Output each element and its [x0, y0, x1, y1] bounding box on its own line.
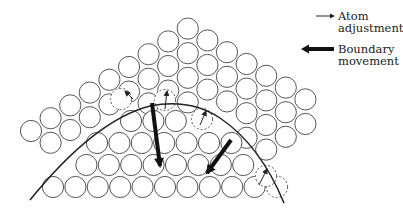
atom-circle	[222, 176, 243, 197]
atom-circle	[60, 119, 81, 140]
atom-circle	[76, 154, 97, 175]
atom-circle	[177, 176, 198, 197]
atom-circle	[165, 154, 186, 175]
atom-circle	[40, 108, 61, 129]
atom-circle	[216, 66, 237, 87]
atom-circle	[216, 91, 237, 112]
atom-circle	[236, 103, 257, 124]
atom-circle	[109, 132, 130, 153]
atom-circle	[110, 176, 131, 197]
atom-circle	[275, 102, 296, 123]
atom-circle	[256, 90, 277, 111]
atom-circle	[65, 176, 86, 197]
atom-circle	[236, 53, 257, 74]
atom-circle	[40, 132, 61, 153]
atom-circle	[236, 78, 257, 99]
atom-circle	[121, 154, 142, 175]
atom-circle	[177, 43, 198, 64]
atom-circle	[158, 55, 179, 76]
atom-circle	[110, 88, 131, 109]
atom-circle	[199, 176, 220, 197]
atom-circle	[197, 79, 218, 100]
atom-circle	[120, 110, 141, 131]
atom-circle	[177, 18, 198, 39]
atom-circle	[158, 31, 179, 52]
legend: Atom adjustment Boundary movement	[300, 0, 400, 90]
atom-circle	[118, 56, 139, 77]
atom-circle	[198, 132, 219, 153]
atom-circle	[138, 68, 159, 89]
atom-circle	[86, 132, 107, 153]
atom-circle	[295, 89, 316, 110]
atom-circle	[275, 77, 296, 98]
atom-circle	[42, 176, 63, 197]
atom-circle	[99, 69, 120, 90]
atom-circle	[138, 44, 159, 65]
legend-item-atom-adjustment: Atom adjustment	[300, 10, 403, 34]
atom-circle	[87, 176, 108, 197]
atom-circle	[188, 154, 209, 175]
legend-label-line2: movement	[338, 55, 399, 67]
atom-circle	[98, 154, 119, 175]
legend-label-line2: adjustment	[338, 22, 403, 34]
legend-item-boundary-movement: Boundary movement	[300, 43, 399, 67]
atom-circle	[256, 65, 277, 86]
atom-circle	[131, 132, 152, 153]
atom-circle	[132, 176, 153, 197]
atom-circle	[79, 82, 100, 103]
atom-circle	[295, 113, 316, 134]
thick-arrow-icon	[300, 43, 338, 55]
atom-circle	[20, 120, 41, 141]
atom-circle	[60, 95, 81, 116]
atom-circle	[165, 110, 186, 131]
atom-circle	[177, 92, 198, 113]
atom-circle	[79, 107, 100, 128]
atom-circle	[154, 176, 175, 197]
atom-circle	[197, 54, 218, 75]
thin-arrow-icon	[300, 10, 338, 22]
atom-circle	[176, 132, 197, 153]
atom-circle	[216, 42, 237, 63]
atom-circle	[233, 154, 254, 175]
atom-circle	[256, 114, 277, 135]
atom-circle	[197, 30, 218, 51]
atom-circle	[177, 67, 198, 88]
atom-circle	[275, 126, 296, 147]
